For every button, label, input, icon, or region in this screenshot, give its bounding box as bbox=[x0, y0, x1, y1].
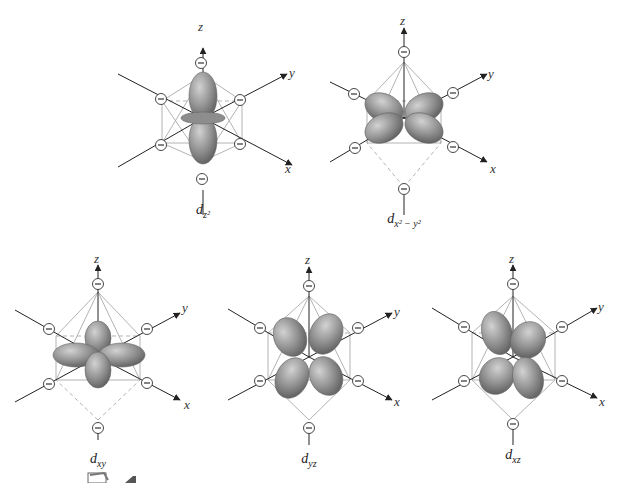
dyz-y-label: y bbox=[394, 305, 400, 318]
orbital-label-dyz: dyz bbox=[301, 452, 316, 469]
dz2-z-label: z bbox=[198, 20, 203, 33]
dxz-x-label: x bbox=[599, 395, 605, 408]
dx2y2-x-label: x bbox=[490, 162, 496, 175]
dxz-z-label: z bbox=[509, 252, 514, 265]
dx2y2-z-label: z bbox=[400, 14, 405, 27]
orbital-label-dxy: dxy bbox=[90, 452, 106, 469]
dz2-diagram bbox=[0, 0, 620, 483]
partial-figure-artifact bbox=[88, 473, 136, 483]
orbital-label-dx2y2: dx² − y² bbox=[387, 212, 421, 229]
dz2-y-label: y bbox=[289, 66, 295, 79]
dyz-axes bbox=[228, 267, 392, 445]
orbital-label-dz2: dz² bbox=[196, 203, 210, 220]
dz2-x-label: x bbox=[285, 162, 291, 175]
orbital-panel-dz2: z y x z y x z y x z y x z y x dz² dx² − … bbox=[0, 0, 620, 483]
dyz-x-label: x bbox=[394, 395, 400, 408]
orbital-label-dxz: dxz bbox=[505, 448, 520, 465]
dxy-z-label: z bbox=[94, 252, 99, 265]
dxy-y-label: y bbox=[182, 301, 188, 314]
dxy-lobes bbox=[53, 321, 145, 388]
dyz-z-label: z bbox=[305, 253, 310, 266]
dxz-y-label: y bbox=[598, 300, 604, 313]
dxy-x-label: x bbox=[184, 398, 190, 411]
dx2y2-y-label: y bbox=[488, 67, 494, 80]
